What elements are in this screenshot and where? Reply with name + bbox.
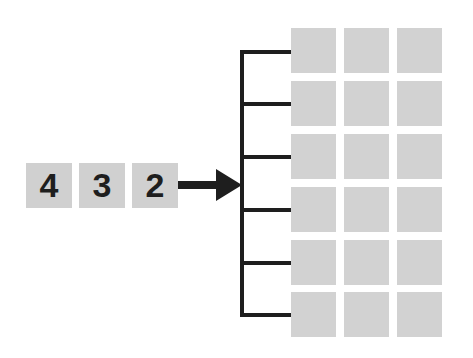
grid-cell bbox=[397, 28, 442, 73]
grid-cell bbox=[344, 187, 389, 232]
arrow-icon bbox=[178, 169, 242, 201]
grid-cell bbox=[344, 134, 389, 179]
grid-cell bbox=[344, 292, 389, 337]
grid-cell bbox=[397, 81, 442, 126]
grid-cell bbox=[291, 81, 336, 126]
grid-cell bbox=[291, 134, 336, 179]
grid-cell bbox=[344, 240, 389, 285]
diagram-canvas: 4 3 2 bbox=[0, 0, 473, 358]
grid-cell bbox=[397, 134, 442, 179]
grid-cell bbox=[397, 187, 442, 232]
grid-cell bbox=[397, 240, 442, 285]
grid-cell bbox=[397, 292, 442, 337]
grid-cell bbox=[344, 28, 389, 73]
grid-cell bbox=[291, 292, 336, 337]
grid-cell bbox=[344, 81, 389, 126]
grid-cell bbox=[291, 240, 336, 285]
bracket bbox=[240, 50, 291, 317]
grid-cell bbox=[291, 28, 336, 73]
grid-cell bbox=[291, 187, 336, 232]
